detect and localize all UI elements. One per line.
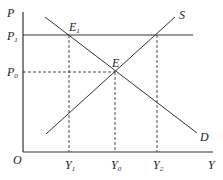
- demand-curve: [45, 17, 197, 133]
- demand-label: D: [199, 130, 209, 144]
- origin-label: O: [13, 153, 22, 167]
- y0-label: Y0: [111, 158, 122, 173]
- x-axis-label: Y: [208, 158, 216, 172]
- p1-label: P1: [6, 29, 18, 44]
- p0-label: P0: [6, 65, 18, 80]
- y2-label: Y2: [153, 158, 164, 173]
- supply-demand-diagram: P P1 P0 O Y1 Y0 Y2 Y E1 E S D: [0, 0, 223, 180]
- e1-label: E1: [68, 20, 80, 35]
- supply-label: S: [179, 8, 185, 22]
- y1-label: Y1: [65, 158, 75, 173]
- y-axis-label: P: [6, 6, 15, 20]
- equilibrium-label: E: [111, 56, 120, 70]
